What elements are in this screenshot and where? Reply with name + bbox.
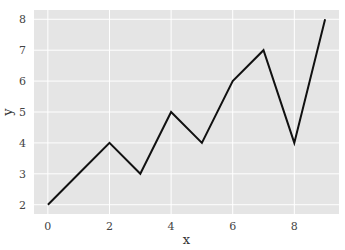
y-tick-label: 5 (19, 106, 26, 119)
y-tick-label: 3 (19, 168, 26, 181)
x-axis-ticks: 02468 (44, 220, 297, 233)
x-axis-label: x (183, 232, 191, 247)
x-tick-label: 8 (291, 220, 298, 233)
x-tick-label: 2 (106, 220, 113, 233)
y-tick-label: 2 (19, 199, 26, 212)
y-tick-label: 4 (19, 137, 26, 150)
y-tick-label: 6 (19, 75, 26, 88)
y-axis-label: y (0, 108, 15, 117)
x-tick-label: 0 (44, 220, 51, 233)
x-tick-label: 6 (229, 220, 236, 233)
x-tick-label: 4 (168, 220, 175, 233)
y-axis-ticks: 2345678 (19, 13, 26, 211)
line-chart: 02468 2345678 x y (0, 0, 345, 250)
y-tick-label: 8 (19, 13, 26, 26)
y-tick-label: 7 (19, 44, 26, 57)
